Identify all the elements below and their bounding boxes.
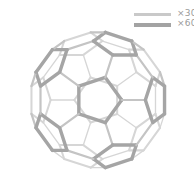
single-bond <box>74 100 90 123</box>
double-bond <box>67 41 93 50</box>
legend: ×30 ×60 <box>134 9 194 29</box>
legend-label-60: ×60 <box>177 18 194 28</box>
single-bond <box>74 77 90 100</box>
legend-label-30: ×30 <box>177 8 194 18</box>
double-bond <box>83 123 90 146</box>
legend-item-60: ×60 <box>134 19 194 29</box>
single-bond <box>105 32 131 41</box>
single-bond <box>105 100 121 123</box>
double-bond <box>105 55 112 78</box>
double-bond <box>103 150 129 159</box>
double-bond <box>60 72 79 86</box>
legend-line-dark <box>134 23 171 27</box>
double-bond <box>105 123 112 146</box>
single-bond <box>64 159 90 168</box>
legend-line-light <box>134 13 171 16</box>
double-bond <box>117 72 136 86</box>
double-bond <box>117 114 136 128</box>
double-bond <box>60 114 79 128</box>
single-bond <box>36 72 41 86</box>
single-bond <box>36 114 41 128</box>
single-bond <box>64 32 90 41</box>
single-bond <box>105 159 131 168</box>
single-bond <box>105 77 121 100</box>
double-bond <box>103 41 129 50</box>
double-bond <box>83 55 90 78</box>
double-bond <box>67 150 93 159</box>
